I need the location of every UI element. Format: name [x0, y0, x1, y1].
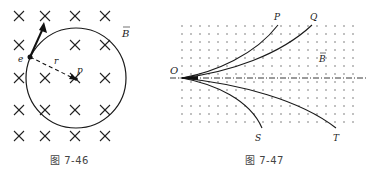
track-T — [182, 78, 336, 128]
track-Q — [182, 25, 312, 78]
magnetic-field-circle-diagram: e r p B — [0, 0, 170, 176]
radius-line — [30, 57, 75, 79]
figure-7-46: e r p B 图 7-46 — [0, 0, 170, 176]
label-track-P: P — [273, 12, 281, 22]
label-track-S: S — [255, 133, 261, 143]
arrow-head-icon — [39, 22, 47, 33]
label-field: B — [318, 54, 326, 64]
particle-tracks-diagram: O P Q S T B — [170, 0, 369, 176]
center-dot — [74, 77, 78, 81]
caption-7-47: 图 7-47 — [245, 152, 284, 167]
track-P — [182, 25, 278, 78]
label-radius: r — [54, 56, 59, 66]
figure-7-47: O P Q S T B 图 7-47 — [170, 0, 369, 176]
label-electron: e — [18, 54, 23, 64]
track-S — [182, 78, 262, 128]
label-origin: O — [170, 65, 178, 76]
label-track-Q: Q — [310, 12, 318, 22]
label-center: p — [77, 65, 83, 75]
caption-7-46: 图 7-46 — [50, 152, 89, 167]
label-field: B — [121, 28, 129, 39]
label-track-T: T — [333, 133, 340, 143]
